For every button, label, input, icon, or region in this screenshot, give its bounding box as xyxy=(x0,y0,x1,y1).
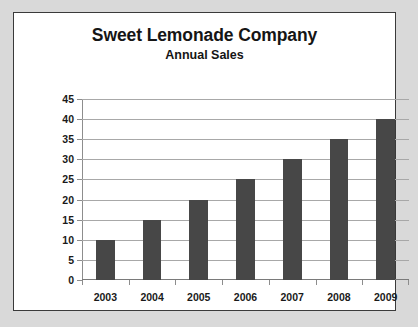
x-axis-tick-label: 2005 xyxy=(187,291,210,303)
y-axis-tick-label: 0 xyxy=(50,275,74,285)
y-axis-tick-label: 45 xyxy=(50,94,74,104)
bar xyxy=(376,119,395,280)
chart-screenshot: Sweet Lemonade Company Annual Sales Sale… xyxy=(0,0,418,327)
y-axis-tick-label: 15 xyxy=(50,215,74,225)
x-axis-tick-label: 2004 xyxy=(140,291,163,303)
x-axis-tick-label: 2003 xyxy=(94,291,117,303)
y-axis-tick-label: 20 xyxy=(50,195,74,205)
y-axis-tick-label: 30 xyxy=(50,154,74,164)
bar-series xyxy=(82,99,409,280)
bar xyxy=(189,200,208,280)
chart-subtitle: Annual Sales xyxy=(14,47,395,63)
bar xyxy=(283,159,302,280)
x-axis-tick-label: 2007 xyxy=(281,291,304,303)
y-axis-tick-label: 10 xyxy=(50,235,74,245)
chart-frame: Sweet Lemonade Company Annual Sales Sale… xyxy=(13,12,396,311)
y-axis-tick-label: 35 xyxy=(50,134,74,144)
x-axis-labels: 2003200420052006200720082009 xyxy=(82,280,409,304)
bar xyxy=(330,139,349,280)
bar xyxy=(96,240,115,280)
chart-title-block: Sweet Lemonade Company Annual Sales xyxy=(14,13,395,63)
bar xyxy=(143,220,162,280)
plot-wrapper: 051015202530354045 200320042005200620072… xyxy=(69,87,410,297)
x-axis-tick-label: 2006 xyxy=(234,291,257,303)
plot-area: 051015202530354045 200320042005200620072… xyxy=(82,99,409,280)
y-axis-tick-label: 40 xyxy=(50,114,74,124)
y-axis-tick-label: 5 xyxy=(50,255,74,265)
chart-title: Sweet Lemonade Company xyxy=(14,25,395,45)
bar xyxy=(236,179,255,280)
y-axis-tick-label: 25 xyxy=(50,174,74,184)
x-axis-tick-label: 2008 xyxy=(327,291,350,303)
x-axis-tick-label: 2009 xyxy=(374,291,397,303)
